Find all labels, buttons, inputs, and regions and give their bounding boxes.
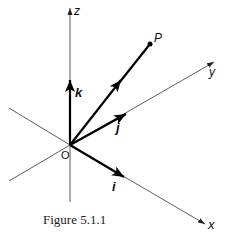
z-axis-label: z [73,4,80,18]
y-axis-label: y [208,65,216,79]
figure-caption: Figure 5.1.1 [43,212,106,227]
j-label: j [114,120,120,135]
origin-label: O [61,149,70,161]
i-label: i [112,179,116,194]
op-vector-second-half [119,44,150,83]
i-vector [70,145,124,177]
x-axis-negative [9,108,70,145]
point-p-dot [148,42,153,47]
x-axis-label: x [207,217,215,232]
k-label: k [75,85,83,100]
point-p-label: P [154,31,162,45]
coordinate-diagram: z y x P k j i O Figure 5.1.1 [0,0,229,242]
